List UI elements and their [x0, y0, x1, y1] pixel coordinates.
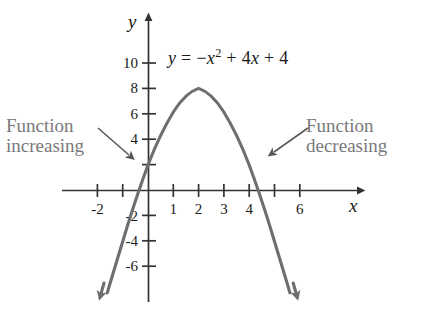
- equation-constant: 4: [279, 48, 288, 68]
- x-tick-label-4: 4: [245, 201, 253, 217]
- x-tick-label-2: 2: [195, 201, 203, 217]
- y-axis-tick-labels: 10 8 6 4 -2 -4 -6: [123, 55, 139, 274]
- annotation-increasing-line-1: Function: [6, 116, 84, 136]
- equation-equals: =: [181, 48, 191, 68]
- x-tick-label--2: -2: [91, 201, 104, 217]
- equation-variable-1: x: [207, 48, 215, 68]
- annotation-arrow-right-icon: [274, 128, 308, 152]
- equation-plus-1: +: [226, 48, 236, 68]
- x-axis-tick-labels: -2 1 2 3 4 6: [91, 201, 304, 217]
- figure-container: -2 1 2 3 4 6 x: [0, 0, 424, 320]
- annotation-function-decreasing: Function decreasing: [306, 116, 387, 156]
- y-tick-label-8: 8: [131, 80, 139, 96]
- equation-exponent: 2: [215, 46, 221, 60]
- equation-plus-2: +: [264, 48, 274, 68]
- y-tick-label-4: 4: [131, 131, 139, 147]
- curve-arrow-left-icon: [101, 283, 104, 293]
- x-tick-label-6: 6: [296, 201, 304, 217]
- annotation-decreasing-line-2: decreasing: [306, 136, 387, 156]
- x-tick-label-3: 3: [220, 201, 228, 217]
- equation-variable-2: x: [251, 48, 259, 68]
- equation-lhs: y: [168, 48, 176, 68]
- y-tick-label-6: 6: [131, 106, 139, 122]
- y-tick-label--4: -4: [126, 233, 139, 249]
- y-axis-label: y: [126, 11, 137, 32]
- annotation-arrow-left-icon: [98, 128, 129, 155]
- curve-arrow-right-icon: [293, 283, 296, 293]
- y-tick-label--6: -6: [126, 258, 139, 274]
- equation-coefficient: 4: [242, 48, 251, 68]
- x-axis-label: x: [348, 195, 358, 216]
- x-axis: -2 1 2 3 4 6 x: [62, 184, 358, 217]
- y-tick-label-10: 10: [123, 55, 138, 71]
- annotation-function-increasing: Function increasing: [6, 116, 84, 156]
- annotation-decreasing-line-1: Function: [306, 116, 387, 136]
- x-tick-label-1: 1: [170, 201, 178, 217]
- equation-label: y = −x2 + 4x + 4: [168, 48, 289, 69]
- annotation-increasing-line-2: increasing: [6, 136, 84, 156]
- equation-negative-sign: −: [196, 48, 206, 68]
